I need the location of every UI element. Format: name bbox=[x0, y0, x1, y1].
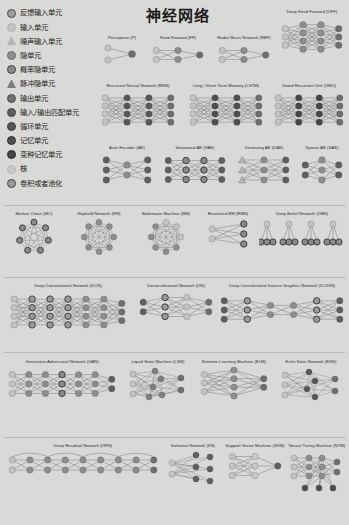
network-caption: Gated Recurrent Unit (GRU) bbox=[270, 84, 348, 88]
network-figure-esn: Echo State Network (ESN) bbox=[274, 360, 348, 402]
network-node bbox=[83, 296, 89, 302]
network-node bbox=[163, 219, 169, 225]
network-node bbox=[65, 296, 71, 302]
network-node bbox=[207, 466, 213, 472]
network-node bbox=[337, 94, 343, 100]
circle-icon bbox=[7, 108, 16, 117]
legend-item-label: 记忆单元 bbox=[20, 137, 48, 144]
network-node bbox=[313, 316, 319, 322]
network-node bbox=[162, 304, 168, 310]
network-node bbox=[124, 119, 130, 125]
network-node bbox=[11, 304, 17, 310]
edge bbox=[83, 453, 118, 457]
network-node bbox=[158, 376, 164, 382]
network-node bbox=[146, 102, 152, 108]
legend-item: 变种记忆单元 bbox=[4, 148, 96, 162]
edge bbox=[212, 239, 244, 244]
network-node bbox=[330, 485, 336, 491]
network-node bbox=[19, 224, 25, 230]
network-node bbox=[130, 391, 136, 397]
circle-ringed-icon bbox=[7, 179, 16, 188]
network-figure-ntm: Neural Turing Machine (NTM) bbox=[286, 444, 348, 492]
network-node bbox=[193, 476, 199, 482]
network-node bbox=[252, 463, 258, 469]
network-node bbox=[27, 467, 33, 473]
network-diagram bbox=[152, 42, 204, 68]
network-node bbox=[231, 392, 237, 398]
network-diagram bbox=[164, 152, 226, 188]
network-node bbox=[292, 239, 298, 245]
network-node bbox=[234, 94, 240, 100]
network-node bbox=[102, 94, 108, 100]
network-node bbox=[26, 390, 32, 396]
network-node bbox=[184, 304, 190, 310]
network-node bbox=[11, 321, 17, 327]
network-node bbox=[316, 485, 322, 491]
network-node bbox=[337, 316, 343, 322]
network-node-triangle bbox=[239, 156, 246, 163]
network-node bbox=[283, 167, 289, 173]
network-node bbox=[65, 313, 71, 319]
legend-item-label: 噪声输入单元 bbox=[20, 38, 63, 45]
network-caption: Deep Convolutional Inverse Graphics Netw… bbox=[216, 284, 348, 288]
network-node bbox=[124, 94, 130, 100]
edge bbox=[234, 370, 264, 379]
network-node bbox=[168, 119, 174, 125]
circle-icon bbox=[7, 23, 16, 32]
legend-item: 核 bbox=[4, 162, 96, 176]
network-node bbox=[219, 167, 225, 173]
network-node bbox=[144, 156, 151, 163]
network-diagram bbox=[189, 90, 263, 130]
network-node bbox=[115, 457, 121, 463]
network-node bbox=[25, 247, 31, 253]
network-node bbox=[244, 307, 250, 313]
network-node bbox=[130, 371, 136, 377]
network-node bbox=[146, 119, 152, 125]
network-node bbox=[316, 119, 322, 125]
network-node bbox=[207, 454, 213, 460]
legend-item: 输入/输出匹配单元 bbox=[4, 105, 96, 119]
network-node bbox=[282, 25, 289, 32]
edge bbox=[12, 453, 47, 457]
edge bbox=[255, 456, 278, 466]
network-node bbox=[80, 467, 86, 473]
network-node bbox=[201, 388, 207, 394]
network-caption: Feed Forward (FF) bbox=[148, 36, 208, 40]
network-node bbox=[282, 392, 288, 398]
network-node bbox=[314, 239, 320, 245]
section-divider bbox=[4, 205, 345, 206]
network-node bbox=[98, 467, 104, 473]
edge bbox=[133, 379, 161, 394]
network-node bbox=[153, 56, 160, 63]
network-node bbox=[302, 485, 308, 491]
network-figure-dbn: Deep Belief Network (DBN) bbox=[256, 212, 348, 254]
network-node bbox=[241, 241, 247, 247]
network-node bbox=[11, 296, 17, 302]
network-node bbox=[336, 239, 342, 245]
network-node bbox=[337, 297, 343, 303]
network-node bbox=[119, 317, 125, 323]
edge bbox=[118, 453, 153, 457]
network-diagram bbox=[274, 90, 344, 130]
network-node bbox=[103, 166, 110, 173]
network-node bbox=[229, 453, 235, 459]
network-node bbox=[252, 453, 258, 459]
network-node bbox=[312, 394, 318, 400]
network-node bbox=[184, 294, 190, 300]
circle-ringed-icon bbox=[7, 65, 16, 74]
network-node bbox=[304, 386, 310, 392]
network-node bbox=[302, 171, 309, 178]
edge bbox=[307, 389, 335, 391]
network-node bbox=[59, 371, 65, 377]
edge bbox=[133, 371, 155, 374]
network-caption: Support Vector Machine (SVM) bbox=[224, 444, 286, 448]
network-node bbox=[312, 378, 318, 384]
network-node bbox=[206, 308, 212, 314]
network-node bbox=[103, 176, 110, 183]
network-node bbox=[332, 376, 338, 382]
network-node bbox=[259, 239, 264, 245]
network-node bbox=[62, 457, 68, 463]
network-caption: Perceptron (P) bbox=[96, 36, 148, 40]
legend-item: 隐单元 bbox=[4, 49, 96, 63]
triangle-icon bbox=[7, 37, 16, 45]
